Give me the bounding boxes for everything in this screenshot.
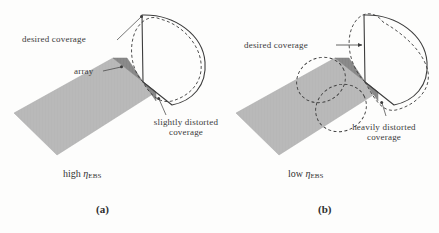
- figure-container: desired coverage array slightly distorte…: [0, 0, 439, 233]
- label-array-a: array: [74, 66, 93, 76]
- leader-dot-distorted-b: [380, 101, 383, 104]
- leader-desired-a: [117, 17, 141, 40]
- label-distorted-coverage-a-line1: slightly distorted: [154, 117, 218, 127]
- leader-dot-distorted-a: [157, 97, 160, 100]
- condition-prefix-b: low: [288, 168, 303, 179]
- label-distorted-coverage-b-line2: coverage: [367, 132, 401, 142]
- label-desired-coverage-a: desired coverage: [22, 34, 86, 44]
- eta-subscript-a: EBS: [88, 172, 101, 180]
- leader-dot-array-a: [120, 65, 123, 68]
- condition-prefix-a: high: [63, 168, 81, 179]
- label-desired-coverage-b: desired coverage: [244, 40, 308, 50]
- label-distorted-coverage-b-line1: heavily distorted: [352, 122, 416, 132]
- leader-distorted-b: [382, 103, 386, 116]
- leader-dot-desired-a: [140, 15, 143, 18]
- panel-tag-b: (b): [318, 203, 331, 215]
- panel-tag-a: (a): [96, 203, 109, 215]
- condition-label-a: high ηEBS: [63, 168, 101, 180]
- label-distorted-coverage-b: heavily distorted coverage: [332, 122, 436, 142]
- condition-label-b: low ηEBS: [288, 168, 324, 180]
- eta-subscript-b: EBS: [310, 172, 323, 180]
- label-distorted-coverage-a-line2: coverage: [169, 127, 203, 137]
- label-distorted-coverage-a: slightly distorted coverage: [134, 117, 238, 137]
